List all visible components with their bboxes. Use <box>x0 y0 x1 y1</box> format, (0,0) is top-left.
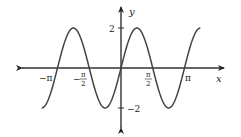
svg-text:−: − <box>73 74 81 84</box>
svg-text:π: π <box>81 71 86 79</box>
svg-text:2: 2 <box>146 80 150 88</box>
svg-text:π: π <box>146 71 151 79</box>
y-axis-label: y <box>128 6 135 17</box>
sine-graph: y x 2 −2 −π π − π 2 π 2 <box>0 0 241 137</box>
x-tick-label-neg-pi: −π <box>39 73 53 83</box>
svg-text:2: 2 <box>81 80 85 88</box>
x-tick-label-neg-half-pi: − π 2 <box>73 71 87 88</box>
x-tick-label-pi: π <box>185 73 191 83</box>
x-tick-label-half-pi: π 2 <box>145 71 152 88</box>
y-tick-label-2: 2 <box>109 24 115 34</box>
x-axis-label: x <box>216 73 222 84</box>
y-tick-label-neg2: −2 <box>127 104 140 114</box>
